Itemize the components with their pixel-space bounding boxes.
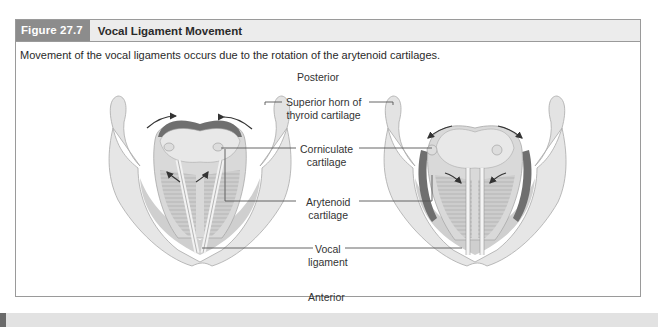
arytenoid-label: Arytenoid cartilage xyxy=(306,196,350,222)
corniculate-label: Corniculate cartilage xyxy=(300,143,353,169)
page-footer-marker xyxy=(0,313,6,327)
corniculate-right xyxy=(492,145,502,155)
corniculate-left xyxy=(427,145,437,155)
anterior-label: Anterior xyxy=(308,291,345,304)
corniculate-left xyxy=(164,143,174,151)
page-footer-band xyxy=(0,313,658,327)
posterior-label: Posterior xyxy=(297,71,339,84)
left-larynx xyxy=(109,96,291,266)
superior-horn-label: Superior horn of thyroid cartilage xyxy=(286,96,361,122)
vocal-ligament-label: Vocal ligament xyxy=(308,243,348,269)
corniculate-right xyxy=(213,143,223,151)
right-larynx xyxy=(384,96,566,266)
